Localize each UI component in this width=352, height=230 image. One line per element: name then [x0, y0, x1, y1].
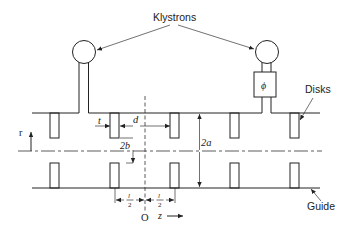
klystron-left-cavity [73, 41, 96, 64]
disks-bottom [50, 163, 299, 188]
t-label: t [98, 115, 101, 126]
klystron-leader-left [97, 25, 170, 50]
disk-top [290, 113, 299, 138]
disk-bottom [50, 163, 59, 188]
d-label: d [133, 114, 139, 125]
phase-shifter-label: ϕ [261, 80, 266, 91]
klystron-leader-right [178, 25, 254, 49]
disks-leader [300, 98, 313, 120]
origin-label: O [141, 212, 149, 223]
klystron-left [73, 41, 96, 114]
disk-top [110, 113, 119, 138]
klystron-right-cavity [256, 41, 279, 64]
klystrons-label: Klystrons [153, 11, 196, 23]
disk-top [50, 113, 59, 138]
svg-text:2: 2 [128, 201, 132, 209]
svg-text:2: 2 [158, 201, 162, 209]
disk-bottom [170, 163, 179, 188]
2b-label: 2b [120, 140, 130, 151]
r-axis-label: r [19, 127, 23, 138]
disks-top [50, 113, 299, 138]
disk-bottom [110, 163, 119, 188]
disk-bottom [290, 163, 299, 188]
z-axis-label: z [157, 210, 162, 221]
half-l-right-label: l 2 [157, 192, 164, 209]
2a-label: 2a [201, 137, 212, 148]
disk-loaded-waveguide-diagram: Klystrons ϕ r t d 2b [0, 0, 352, 230]
klystron-right: ϕ [254, 41, 279, 114]
disk-top [230, 113, 239, 138]
guide-label: Guide [307, 200, 335, 212]
half-l-left-label: l 2 [127, 192, 134, 209]
disk-top [170, 113, 179, 138]
disks-label: Disks [305, 83, 331, 95]
svg-text:l: l [158, 192, 160, 200]
disk-bottom [230, 163, 239, 188]
svg-text:l: l [128, 192, 130, 200]
